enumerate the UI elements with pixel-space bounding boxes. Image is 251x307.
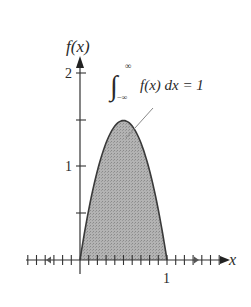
pdf-chart: f(x) 2 1 1 x ∫ ∞ −∞ f(x) dx = 1: [0, 0, 251, 307]
y-axis-ticks: [76, 73, 86, 213]
y-tick-label-1: 1: [65, 159, 72, 174]
y-axis-arrow-icon: [76, 56, 84, 68]
x-tick-label-1: 1: [163, 271, 170, 286]
integral-annotation: ∫ ∞ −∞ f(x) dx = 1: [108, 61, 204, 103]
x-axis-label: x: [228, 251, 236, 268]
left-marker-icon: [46, 257, 51, 264]
svg-text:−∞: −∞: [117, 93, 128, 102]
svg-text:∞: ∞: [125, 61, 131, 71]
svg-text:f(x) dx = 1: f(x) dx = 1: [140, 77, 204, 94]
right-marker-icon: [194, 257, 199, 264]
y-axis-label: f(x): [66, 37, 90, 56]
y-tick-label-2: 2: [65, 66, 72, 81]
